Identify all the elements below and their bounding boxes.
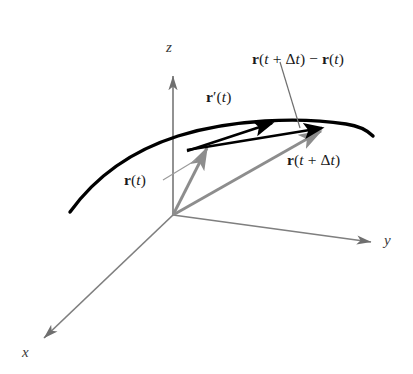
rparen-glyph: ) <box>335 151 340 168</box>
r-bold-glyph-2: r <box>322 50 329 67</box>
r-bold-glyph: r <box>206 88 213 105</box>
y-axis-label: y <box>384 233 391 248</box>
delta-glyph: Δ <box>285 50 295 67</box>
delta-glyph: Δ <box>320 151 330 168</box>
r-bold-glyph: r <box>287 151 294 168</box>
axis-group <box>44 76 371 338</box>
label-difference-vector: r(t + Δt) − r(t) <box>252 51 344 67</box>
plus-glyph: + <box>304 151 321 168</box>
plus-glyph: + <box>269 50 286 67</box>
label-r-prime-of-t: r′(t) <box>206 89 231 105</box>
rparen-glyph: ) <box>141 171 146 188</box>
label-r-of-t: r(t) <box>124 172 146 188</box>
position-vector-group <box>173 131 321 215</box>
r-bold-glyph: r <box>124 171 131 188</box>
x-axis-line <box>44 215 173 338</box>
rparen-glyph-2: ) <box>339 50 344 67</box>
leader-line-difference <box>280 62 300 128</box>
figure-canvas <box>0 0 413 374</box>
vector-derivative-figure: z y x r(t) r′(t) r(t + Δt) r(t + Δt) − r… <box>0 0 413 374</box>
x-axis-label: x <box>22 345 29 360</box>
secant-difference-vector <box>187 128 322 150</box>
label-r-of-t-plus-delta-t: r(t + Δt) <box>287 152 340 168</box>
y-axis-line <box>173 215 371 242</box>
minus-glyph: − <box>305 50 322 67</box>
rparen-glyph: ) <box>226 88 231 105</box>
z-axis-label: z <box>166 40 172 55</box>
r-bold-glyph-1: r <box>252 50 259 67</box>
